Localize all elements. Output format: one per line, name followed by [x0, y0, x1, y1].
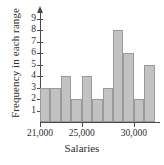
x-tick-label-30,000: 30,000 — [112, 128, 156, 138]
y-tick-label-8: 8 — [26, 25, 36, 35]
y-tick-label-6: 6 — [26, 48, 36, 58]
x-tick-21,000 — [40, 122, 41, 127]
x-axis-line — [40, 122, 160, 123]
y-tick-label-2: 2 — [26, 94, 36, 104]
bar — [92, 99, 102, 122]
bar — [82, 76, 92, 122]
bar — [61, 76, 71, 122]
bar — [144, 65, 154, 122]
bar — [123, 53, 133, 122]
x-axis-title: Salaries — [0, 142, 164, 154]
bar — [113, 30, 123, 122]
bar — [134, 99, 144, 122]
y-tick-label-4: 4 — [26, 71, 36, 81]
y-tick-label-7: 7 — [26, 37, 36, 47]
bar — [40, 88, 50, 122]
bar — [103, 88, 113, 122]
x-tick-label-21,000: 21,000 — [18, 128, 62, 138]
y-tick-label-9: 9 — [26, 14, 36, 24]
histogram-chart: Frequency in each range 123456789 21,000… — [0, 0, 164, 165]
bar-series — [40, 12, 160, 122]
y-tick-label-5: 5 — [26, 60, 36, 70]
x-tick-30,000 — [134, 122, 135, 127]
bar — [50, 88, 60, 122]
y-tick-label-1: 1 — [26, 106, 36, 116]
y-axis-title: Frequency in each range — [9, 3, 21, 123]
bar — [71, 99, 81, 122]
y-tick-label-3: 3 — [26, 83, 36, 93]
x-tick-25,000 — [82, 122, 83, 127]
x-tick-label-25,000: 25,000 — [60, 128, 104, 138]
